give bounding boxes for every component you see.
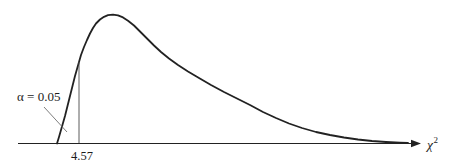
x-axis-label: χ2	[425, 135, 438, 152]
figure-canvas: α = 0.05 4.57 χ2	[0, 0, 451, 168]
x-axis-label-exponent: 2	[433, 135, 438, 145]
x-axis-arrowhead-icon	[411, 140, 421, 148]
chi-square-distribution-figure: α = 0.05 4.57 χ2	[0, 0, 451, 168]
density-curve	[57, 15, 408, 144]
critical-value-label: 4.57	[71, 149, 93, 163]
alpha-label: α = 0.05	[17, 89, 60, 104]
